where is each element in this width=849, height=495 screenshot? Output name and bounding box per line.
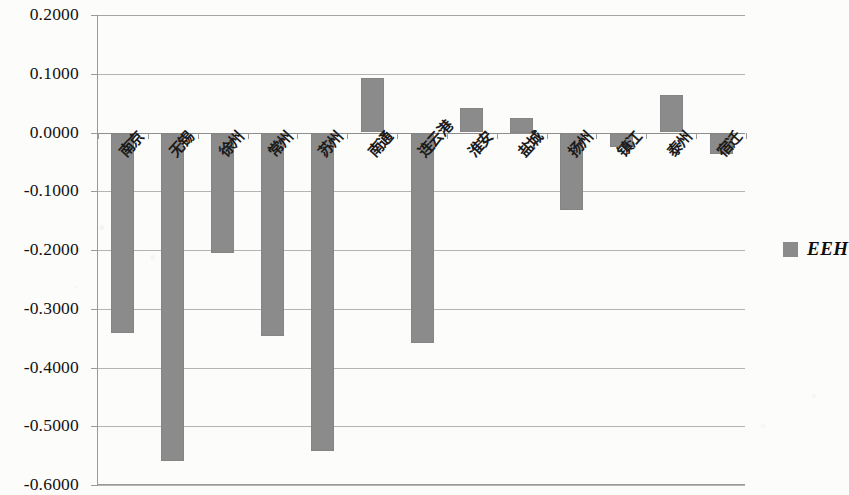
bar — [361, 78, 384, 133]
y-axis-tick — [91, 15, 98, 16]
bar — [311, 133, 334, 451]
plot-area — [97, 15, 745, 485]
bar — [411, 133, 434, 343]
x-axis-tick — [198, 133, 199, 139]
x-axis-tick — [248, 133, 249, 139]
gridline — [98, 15, 745, 16]
gridline — [98, 426, 745, 427]
x-axis-tick — [596, 133, 597, 139]
x-axis-tick — [347, 133, 348, 139]
y-axis-label: 0.1000 — [0, 65, 79, 83]
y-axis-label: -0.4000 — [0, 359, 79, 377]
x-axis-tick — [646, 133, 647, 139]
y-axis-tick — [91, 250, 98, 251]
x-axis-tick — [746, 133, 747, 139]
gridline — [98, 368, 745, 369]
legend-swatch-eeh — [783, 242, 798, 257]
x-axis-tick — [397, 133, 398, 139]
y-axis-tick — [91, 74, 98, 75]
y-axis-tick — [91, 191, 98, 192]
x-axis-tick — [148, 133, 149, 139]
gridline — [98, 485, 745, 486]
y-axis-label: -0.5000 — [0, 417, 79, 435]
y-axis-tick — [91, 368, 98, 369]
bar — [111, 133, 134, 334]
bar — [261, 133, 284, 337]
x-axis-tick — [696, 133, 697, 139]
y-axis-label: -0.2000 — [0, 241, 79, 259]
y-axis-tick — [91, 133, 98, 134]
x-axis-tick — [547, 133, 548, 139]
x-axis-tick — [297, 133, 298, 139]
bar — [161, 133, 184, 461]
y-axis-label: 0.2000 — [0, 6, 79, 24]
y-axis-label: -0.3000 — [0, 300, 79, 318]
y-axis-label: -0.1000 — [0, 182, 79, 200]
y-axis-label: 0.0000 — [0, 124, 79, 142]
y-axis-tick — [91, 309, 98, 310]
y-axis-tick — [91, 426, 98, 427]
legend-label-eeh: EEH — [807, 238, 849, 260]
y-axis-label: -0.6000 — [0, 476, 79, 494]
x-axis-tick — [98, 133, 99, 139]
y-axis-tick — [91, 485, 98, 486]
x-axis-tick — [497, 133, 498, 139]
gridline — [98, 74, 745, 75]
chart-legend: EEH — [783, 238, 849, 260]
